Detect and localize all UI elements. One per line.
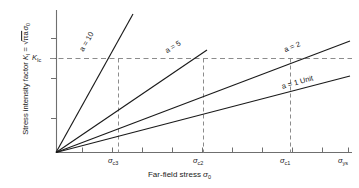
sqrt-icon: √ (21, 41, 30, 45)
x-tick-label-sigma-c2: σc2 (193, 156, 203, 165)
y-axis-label-radicand: πa (21, 31, 31, 40)
y-axis-label-symbol: K (21, 55, 30, 60)
x-tick-label-sigma-ys: σys (338, 156, 348, 165)
x-axis-label-text: Far-field stress (148, 170, 203, 179)
y-axis-label-equals: = (21, 45, 30, 54)
y-axis-label: Stress intensity factor KI = √πa σ0 (21, 4, 31, 154)
series-line-a5 (56, 50, 207, 153)
x-tick-marks (83, 148, 349, 153)
chart-canvas (0, 0, 359, 188)
x-tick-label-sigma-c3: σc3 (108, 156, 118, 165)
x-tick-label-sigma-c1: σc1 (280, 156, 290, 165)
figure-stress-intensity-chart: Stress intensity factor KI = √πa σ0 KIc … (0, 0, 359, 188)
y-axis-label-subscript: I (25, 54, 31, 56)
x-axis-label-subscript: 0 (208, 174, 211, 180)
y-axis-label-factor-sub: 0 (25, 23, 31, 26)
kic-subscript: Ic (37, 57, 41, 63)
kic-axis-value-label: KIc (32, 54, 41, 62)
y-axis-label-factor: σ (21, 26, 30, 31)
y-axis-label-prefix: Stress intensity factor (21, 60, 30, 135)
x-axis-label: Far-field stress σ0 (0, 170, 359, 179)
y-tick-marks (51, 39, 56, 119)
